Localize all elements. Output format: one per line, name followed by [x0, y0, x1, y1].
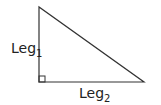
- leg1-label: Leg1: [11, 41, 42, 55]
- leg2-subscript: 2: [104, 93, 110, 104]
- triangle-shape: [39, 7, 144, 82]
- right-angle-marker: [39, 76, 45, 82]
- leg1-text: Leg: [11, 40, 36, 56]
- leg1-subscript: 1: [36, 48, 42, 59]
- leg2-text: Leg: [79, 85, 104, 101]
- leg2-label: Leg2: [79, 86, 110, 100]
